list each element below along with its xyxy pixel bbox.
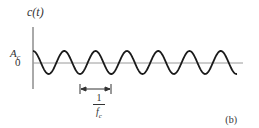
period-label: 1 fc — [84, 93, 114, 122]
y-axis-label: c(t) — [27, 5, 44, 20]
period-numerator: 1 — [84, 93, 114, 103]
fraction-bar — [93, 104, 105, 105]
period-denominator: fc — [84, 106, 114, 122]
panel-label: (b) — [225, 114, 237, 125]
zero-label: 0 — [15, 56, 21, 68]
